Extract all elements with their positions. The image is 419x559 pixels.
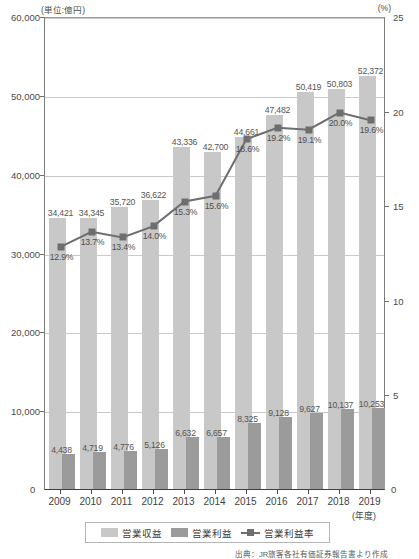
x-axis-tick [215,490,216,494]
revenue-bar-value-label: 47,482 [258,105,298,115]
revenue-bar [204,152,221,489]
margin-marker [274,124,281,131]
x-axis-unit-label: (年度) [352,509,376,522]
profit-bar [155,449,168,489]
legend-label-revenue: 営業収益 [122,526,162,540]
profit-bar [62,454,75,489]
x-axis-tick [246,490,247,494]
right-axis-tick [385,112,389,113]
margin-marker [367,117,374,124]
revenue-bar [359,76,376,489]
left-axis-tick-label: 60,000 [0,12,40,23]
profit-bar-value-label: 6,657 [199,428,235,438]
left-axis-tick-label: 10,000 [0,406,40,417]
margin-value-label: 19.1% [294,135,326,145]
revenue-bar-value-label: 42,700 [196,142,236,152]
margin-value-label: 14.0% [139,231,171,241]
profit-bar [217,437,230,489]
revenue-bar-value-label: 34,345 [72,208,112,218]
margin-marker [57,243,64,250]
margin-value-label: 19.2% [263,133,295,143]
x-axis-tick [60,490,61,494]
x-axis-tick-label: 2017 [296,496,318,507]
margin-marker [181,198,188,205]
profit-bar-value-label: 9,128 [261,408,297,418]
margin-value-label: 19.6% [356,125,388,135]
left-axis-tick-label: 20,000 [0,327,40,338]
left-axis-unit-label: (単位:億円) [41,3,85,15]
x-axis-tick [91,490,92,494]
right-axis-tick [385,301,389,302]
revenue-bar [142,200,159,489]
x-axis-tick [277,490,278,494]
left-axis-tick [40,96,44,97]
legend-item-revenue: 営業収益 [101,526,162,540]
revenue-bar-value-label: 34,421 [41,208,81,218]
x-axis-tick-label: 2012 [141,496,163,507]
left-axis-tick [40,254,44,255]
profit-bar-value-label: 6,632 [168,428,204,438]
right-axis-zero-label: 0 [391,484,396,495]
revenue-bar [49,218,66,489]
revenue-bar-value-label: 50,419 [289,82,329,92]
margin-line-swatch-icon [241,528,260,537]
x-axis-tick [339,490,340,494]
left-axis-tick-label: 40,000 [0,169,40,180]
profit-bar [310,413,323,489]
left-axis-tick [40,175,44,176]
profit-bar-value-label: 9,627 [292,404,328,414]
x-axis-tick [153,490,154,494]
x-axis-tick-label: 2010 [79,496,101,507]
revenue-bar [266,115,283,489]
x-axis-tick [308,490,309,494]
source-note: 出典：JR旅客各社有価証券報告書より作成 [235,548,388,559]
revenue-bar [111,207,128,489]
profit-bar [341,409,354,489]
margin-value-label: 20.0% [325,118,357,128]
right-axis-tick-label: 5 [393,390,417,401]
margin-line-svg [45,18,386,491]
margin-marker [336,109,343,116]
x-axis-tick-label: 2019 [358,496,380,507]
x-axis-tick-label: 2016 [265,496,287,507]
margin-marker [212,192,219,199]
profit-bar [186,437,199,489]
right-axis-tick-label: 20 [393,106,417,117]
x-axis-tick-label: 2018 [327,496,349,507]
x-axis-tick-label: 2013 [172,496,194,507]
revenue-swatch-icon [101,528,118,537]
x-axis-tick-label: 2015 [234,496,256,507]
right-axis-tick-label: 15 [393,201,417,212]
margin-value-label: 12.9% [46,252,78,262]
operating-revenue-profit-chart: (単位:億円) (%) 34,4214,43834,3454,71935,720… [0,0,419,559]
right-axis-tick-label: 10 [393,295,417,306]
profit-bar [372,408,385,489]
gridline [45,18,384,19]
right-axis-tick [385,206,389,207]
legend-item-profit: 営業利益 [171,526,232,540]
margin-marker [150,223,157,230]
right-axis-unit-label: (%) [378,3,391,13]
left-axis-tick-label: 30,000 [0,248,40,259]
plot-area: 34,4214,43834,3454,71935,7204,77636,6225… [44,17,385,490]
margin-value-label: 18.6% [232,144,264,154]
profit-bar-value-label: 4,776 [106,442,142,452]
margin-marker [119,234,126,241]
profit-bar-value-label: 10,253 [354,399,390,409]
x-axis-tick [370,490,371,494]
gridline [45,255,384,256]
revenue-bar [235,137,252,489]
right-axis-tick [385,395,389,396]
bar-series-layer: 34,4214,43834,3454,71935,7204,77636,6225… [45,18,384,489]
profit-bar-value-label: 4,719 [75,443,111,453]
chart-legend: 営業収益 営業利益 営業利益率 [85,522,330,543]
margin-marker [243,136,250,143]
profit-swatch-icon [171,528,188,537]
gridline [45,333,384,334]
left-axis-tick [40,411,44,412]
profit-bar [124,451,137,489]
revenue-bar [297,92,314,489]
left-axis-tick [40,332,44,333]
revenue-bar-value-label: 52,372 [351,66,391,76]
revenue-bar-value-label: 44,661 [227,127,267,137]
